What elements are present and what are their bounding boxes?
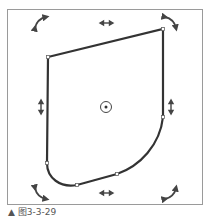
anchor-point-left-lower[interactable] [46,162,49,165]
scale-handle-right-icon[interactable] [169,100,173,114]
transform-diagram [0,0,206,218]
figure-caption: ▲ 图3-3-29 [8,206,56,218]
rotate-handle-top-left-icon[interactable] [35,17,46,28]
rotate-handle-bottom-left-icon[interactable] [35,188,46,199]
anchor-point-top-right[interactable] [162,28,165,31]
anchor-point-top-left[interactable] [47,56,50,59]
rotate-handle-bottom-right-icon[interactable] [165,188,176,199]
anchor-point-bottom-right[interactable] [116,173,119,176]
rotate-handle-top-right-icon[interactable] [165,17,176,28]
scale-handle-bottom-icon[interactable] [100,191,113,195]
anchor-point-bottom-mid[interactable] [76,184,79,187]
center-point-icon[interactable] [101,102,112,113]
anchor-point-right-lower[interactable] [162,116,165,119]
scale-handle-left-icon[interactable] [39,100,43,114]
scale-handle-top-icon[interactable] [100,21,113,25]
